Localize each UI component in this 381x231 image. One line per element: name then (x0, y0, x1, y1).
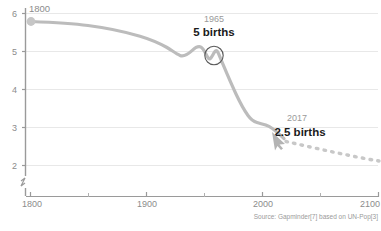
chart-canvas: 6 5 4 3 2 1800 1900 2000 2100 (0, 0, 381, 231)
series-line-historical (31, 22, 284, 139)
x-tick-label-1900: 1900 (137, 199, 157, 209)
y-tick-label-6: 6 (12, 9, 17, 19)
y-tick-label-5: 5 (12, 47, 17, 57)
annotation-2017-year: 2017 (287, 113, 307, 123)
x-tick-label-2100: 2100 (360, 199, 380, 209)
annotation-1965-year: 1965 (204, 14, 224, 24)
series-line-projection (286, 142, 379, 162)
source-credit: Source: Gapminder[7] based on UN-Pop[3] (254, 213, 378, 221)
annotation-1965: 1965 5 births (193, 14, 235, 65)
series-start-label: 1800 (29, 3, 50, 14)
y-axis: 6 5 4 3 2 (12, 8, 26, 196)
annotation-2017: 2017 2.5 births (272, 113, 326, 151)
annotation-2017-value: 2.5 births (274, 126, 325, 138)
fertility-rate-chart: 6 5 4 3 2 1800 1900 2000 2100 (0, 0, 381, 231)
y-axis-break-icon (21, 178, 25, 186)
x-tick-label-2000: 2000 (253, 199, 273, 209)
x-tick-label-1800: 1800 (22, 199, 42, 209)
y-tick-label-3: 3 (12, 123, 17, 133)
y-tick-label-4: 4 (12, 85, 17, 95)
series-start-dot (27, 17, 36, 26)
y-tick-label-2: 2 (12, 161, 17, 171)
annotation-1965-value: 5 births (193, 26, 235, 38)
x-axis: 1800 1900 2000 2100 (22, 192, 380, 209)
